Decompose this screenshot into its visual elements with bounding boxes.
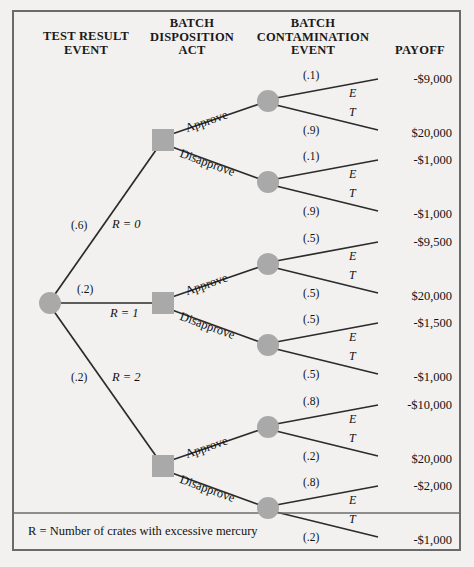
header-line: EVENT	[243, 44, 383, 58]
outcome-label-e: E	[349, 493, 356, 508]
decision-tree-figure: TEST RESULT EVENT BATCH DISPOSITION ACT …	[0, 0, 474, 567]
header-line: BATCH	[136, 17, 248, 31]
edge-c2d-t	[276, 349, 378, 374]
outcome-label-t: T	[349, 431, 356, 446]
outcome-label-e: E	[349, 330, 356, 345]
event-probability: (.9)	[303, 205, 319, 217]
edge-c3a-e	[276, 405, 378, 424]
edge-c2a-t	[276, 268, 378, 293]
event-probability: (.8)	[303, 476, 319, 488]
event-probability: (.9)	[303, 124, 319, 136]
outcome-label-e: E	[349, 86, 356, 101]
edge-c1d-e	[276, 160, 378, 179]
payoff-value: -$9,000	[366, 72, 452, 87]
header-payoff: PAYOFF	[385, 44, 455, 58]
chance-node-r2-disapprove	[257, 497, 279, 519]
payoff-value: -$2,000	[366, 479, 452, 494]
probability-r2: (.2)	[71, 371, 87, 383]
event-probability: (.1)	[303, 150, 319, 162]
header-test-result-event: TEST RESULT EVENT	[26, 30, 146, 57]
edge-c1d-t	[276, 186, 378, 211]
event-probability: (.2)	[303, 531, 319, 543]
header-line: EVENT	[26, 44, 146, 58]
header-line: CONTAMINATION	[243, 31, 383, 45]
edge-c3d-t	[276, 512, 378, 537]
footnote-text: R = Number of crates with excessive merc…	[28, 524, 258, 539]
event-probability: (.5)	[303, 232, 319, 244]
probability-r1: (.2)	[77, 283, 93, 295]
header-line: PAYOFF	[385, 44, 455, 58]
chance-node-r0-approve	[257, 90, 279, 112]
payoff-value: -$1,000	[366, 533, 452, 548]
chance-node-test-result	[39, 292, 61, 314]
header-batch-contamination-event: BATCH CONTAMINATION EVENT	[243, 17, 383, 58]
outcome-label-e: E	[349, 412, 356, 427]
payoff-value: -$1,500	[366, 316, 452, 331]
chance-node-r0-disapprove	[257, 171, 279, 193]
header-batch-disposition-act: BATCH DISPOSITION ACT	[136, 17, 248, 58]
outcome-label-e: E	[349, 249, 356, 264]
header-line: TEST RESULT	[26, 30, 146, 44]
tree-nodes	[39, 90, 279, 519]
header-line: DISPOSITION	[136, 31, 248, 45]
outcome-label-t: T	[349, 186, 356, 201]
payoff-value: -$1,000	[366, 207, 452, 222]
payoff-value: $20,000	[366, 452, 452, 467]
event-probability: (.8)	[303, 395, 319, 407]
edge-c3a-t	[276, 431, 378, 456]
outcome-label-t: T	[349, 512, 356, 527]
decision-node-r0	[152, 129, 174, 151]
outcome-label-e: E	[349, 167, 356, 182]
tree-edges	[53, 79, 378, 537]
event-probability: (.5)	[303, 287, 319, 299]
event-probability: (.5)	[303, 313, 319, 325]
chance-node-r1-disapprove	[257, 334, 279, 356]
branch-label-r1: R = 1	[110, 306, 139, 321]
branch-label-r0: R = 0	[112, 217, 141, 232]
payoff-value: $20,000	[366, 289, 452, 304]
event-probability: (.5)	[303, 368, 319, 380]
probability-r0: (.6)	[71, 219, 87, 231]
edge-c1a-e	[276, 79, 378, 98]
chance-node-r1-approve	[257, 253, 279, 275]
header-line: ACT	[136, 44, 248, 58]
payoff-value: -$1,000	[366, 153, 452, 168]
outcome-label-t: T	[349, 349, 356, 364]
payoff-value: -$9,500	[366, 235, 452, 250]
header-line: BATCH	[243, 17, 383, 31]
payoff-value: $20,000	[366, 126, 452, 141]
decision-node-r2	[152, 455, 174, 477]
decision-node-r1	[152, 292, 174, 314]
outcome-label-t: T	[349, 268, 356, 283]
edge-c3d-e	[276, 486, 378, 505]
outcome-label-t: T	[349, 105, 356, 120]
branch-label-r2: R = 2	[112, 370, 141, 385]
edge-root-r0	[53, 140, 163, 297]
edge-root-r2	[53, 310, 163, 466]
edge-c1a-t	[276, 105, 378, 130]
edge-c2d-e	[276, 323, 378, 342]
edge-c2a-e	[276, 242, 378, 261]
chance-node-r2-approve	[257, 416, 279, 438]
payoff-value: -$10,000	[366, 398, 452, 413]
event-probability: (.1)	[303, 69, 319, 81]
event-probability: (.2)	[303, 450, 319, 462]
payoff-value: -$1,000	[366, 370, 452, 385]
